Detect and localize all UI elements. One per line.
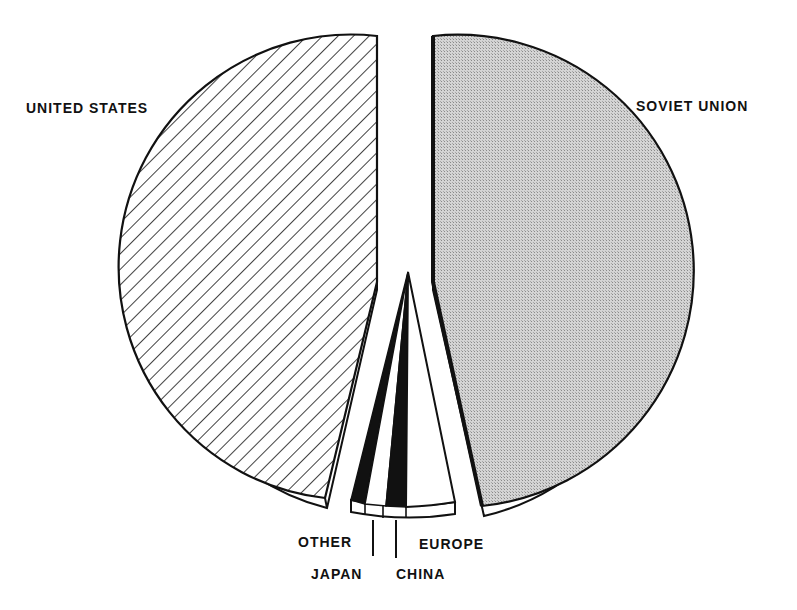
label-soviet-union: SOVIET UNION [636,98,748,114]
label-china: CHINA [396,566,445,582]
label-united-states: UNITED STATES [26,100,148,116]
label-europe: EUROPE [419,536,484,552]
label-other: OTHER [298,534,352,550]
label-japan: JAPAN [311,566,362,582]
pie-chart [0,0,797,610]
slice-united-states [119,35,377,508]
